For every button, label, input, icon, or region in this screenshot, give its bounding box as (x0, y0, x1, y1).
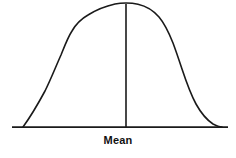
bell-curve-figure: Mean (0, 0, 236, 158)
mean-axis-label: Mean (0, 133, 236, 147)
bell-curve-path (23, 3, 222, 127)
